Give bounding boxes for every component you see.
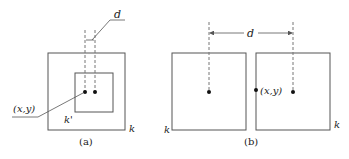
center-right: [291, 90, 295, 94]
point-offset: [93, 90, 97, 94]
panel-b: d (x,y) k k (b): [164, 22, 340, 147]
point-xy: [83, 90, 87, 94]
label-k-a: k: [129, 123, 135, 134]
label-k-left: k: [164, 124, 170, 135]
caption-b: (b): [244, 136, 258, 147]
label-xy-b: (x,y): [260, 85, 282, 96]
label-xy-a: (x,y): [13, 103, 35, 114]
caption-a: (a): [79, 136, 93, 147]
d-leader-line: [92, 20, 125, 40]
point-xy-b: [254, 88, 258, 92]
center-left: [207, 90, 211, 94]
label-k-prime: k': [64, 114, 73, 125]
label-d-a: d: [114, 8, 121, 21]
panel-a: d (x,y) k' k (a): [12, 8, 135, 147]
label-k-right: k: [334, 119, 340, 130]
label-d-b: d: [247, 27, 254, 40]
figure: d (x,y) k' k (a) d (x,y) k k (b): [0, 0, 349, 159]
